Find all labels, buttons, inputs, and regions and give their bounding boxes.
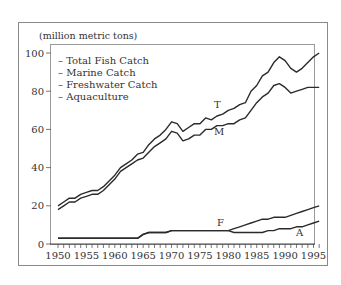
x-tick-label: 1950 [45,250,70,261]
y-tick-label: 100 [25,48,44,59]
series-tag-aquaculture: A [295,227,304,238]
x-tick-label: 1960 [102,250,127,261]
x-tick-label: 1970 [159,250,184,261]
x-tick-label: 1990 [272,250,297,261]
legend-item-marine: – Marine Catch [58,67,136,78]
series-line-aquaculture [58,221,319,238]
series-line-freshwater [58,206,319,239]
legend-item-total: – Total Fish Catch [58,55,150,66]
x-tick-label: 1955 [74,250,99,261]
fish-catch-chart: (million metric tons) 020406080100 19501… [0,0,341,285]
y-tick-label: 20 [31,200,44,211]
unit-label: (million metric tons) [39,30,137,41]
x-tick-label: 1985 [244,250,269,261]
series-tag-total: T [214,99,221,110]
x-tick-label: 1965 [130,250,155,261]
legend-item-freshwater: – Freshwater Catch [58,79,158,90]
y-axis: 020406080100 [25,48,51,250]
x-tick-label: 1980 [216,250,241,261]
y-tick-label: 60 [31,124,44,135]
x-tick-label: 1975 [187,250,212,261]
x-tick-label: 1995 [301,250,326,261]
y-tick-label: 0 [38,239,44,250]
series-tag-freshwater: F [217,217,224,228]
series-tag-marine: M [214,126,224,137]
legend: – Total Fish Catch – Marine Catch – Fres… [58,55,158,102]
series-tags: T M F A [214,99,304,238]
y-tick-label: 80 [31,86,44,97]
x-axis: 1950195519601965197019751980198519901995 [45,244,326,261]
y-tick-label: 40 [31,162,44,173]
legend-item-aquaculture: – Aquaculture [58,91,129,102]
